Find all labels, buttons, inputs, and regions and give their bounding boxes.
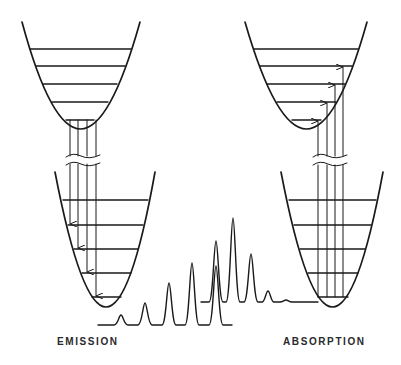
emission-transition-arrows — [70, 120, 96, 296]
emission-upper-potential-well — [22, 22, 140, 129]
absorption-upper-levels — [254, 49, 358, 120]
emission-panel — [22, 22, 155, 307]
franck-condon-diagram: EMISSION ABSORPTION — [0, 0, 401, 365]
emission-lower-levels — [63, 200, 148, 297]
absorption-label: ABSORPTION — [283, 336, 366, 347]
emission-axis-break — [66, 154, 100, 166]
emission-upper-levels — [30, 49, 131, 120]
absorption-panel — [245, 22, 383, 307]
absorption-upper-potential-well — [245, 22, 367, 129]
absorption-lower-levels — [289, 200, 376, 297]
absorption-lower-potential-well — [281, 172, 383, 307]
emission-label: EMISSION — [57, 336, 119, 347]
diagram-graphics — [0, 0, 401, 365]
